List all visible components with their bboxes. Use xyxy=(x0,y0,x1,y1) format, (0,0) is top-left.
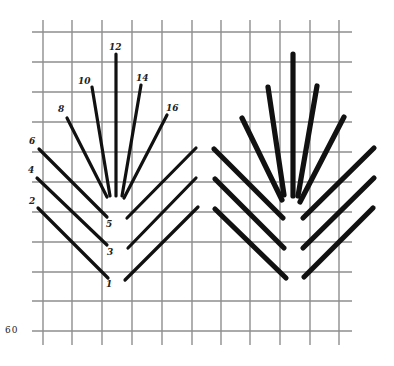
stitch-number-label: 10 xyxy=(78,77,91,86)
stitch-number-label: 5 xyxy=(106,220,112,229)
stitch-line xyxy=(39,149,107,217)
stitch-number-label: 12 xyxy=(109,43,122,52)
stitch-number-label: 16 xyxy=(166,104,179,113)
stitch-number-label: 2 xyxy=(29,197,35,206)
page-number: 60 xyxy=(5,325,18,335)
stitch-number-label: 6 xyxy=(29,137,35,146)
stitch-number-label: 4 xyxy=(28,166,34,175)
stitch-line xyxy=(38,208,108,278)
stitch-diagram-canvas xyxy=(0,0,394,366)
left-diagram-stitches xyxy=(37,54,198,280)
right-diagram-stitches xyxy=(214,54,374,278)
stitch-number-label: 3 xyxy=(107,248,113,257)
stitch-number-label: 1 xyxy=(106,280,112,289)
stitch-number-label: 8 xyxy=(58,105,64,114)
stitch-number-label: 14 xyxy=(136,74,149,83)
stitch-line xyxy=(92,87,110,196)
